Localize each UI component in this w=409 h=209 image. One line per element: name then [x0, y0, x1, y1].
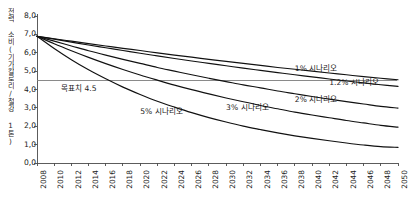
series-annotation-label: 3% 시나리오	[226, 104, 268, 112]
series-annotation-label: 2% 시나리오	[295, 96, 337, 104]
series-annotation-label: 1.2% 시나리오	[329, 79, 379, 87]
series-annotation-label: 5% 시나리오	[140, 108, 182, 116]
reference-line-label: 목표치 4.5	[61, 85, 97, 93]
series-annotation-label: 1% 시나리오	[295, 65, 337, 73]
series-line	[37, 36, 398, 108]
